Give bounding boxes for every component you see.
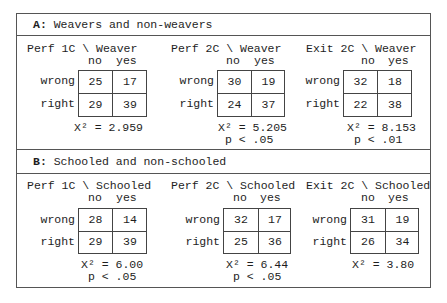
cell: 39 [113, 99, 147, 111]
row-label-wrong: wrong [174, 214, 220, 226]
row-label-right: right [174, 236, 220, 248]
divider [16, 149, 431, 150]
section-a-label: A: [33, 18, 47, 31]
section-b-title: Schooled and non-schooled [54, 155, 227, 168]
col-header-yes: yes [260, 192, 281, 204]
cell: 17 [113, 76, 147, 88]
chi-square-value: X² = 3.80 [352, 259, 414, 271]
row-label-right: right [30, 98, 75, 110]
cell: 14 [113, 214, 147, 226]
section-a-title: Weavers and non-weavers [54, 18, 213, 31]
contingency-grid: 32 17 25 36 [223, 208, 291, 254]
col-header-no: no [361, 55, 375, 67]
col-header-yes: yes [388, 55, 409, 67]
cell: 38 [378, 99, 412, 111]
p-value: p < .01 [354, 134, 402, 146]
cell: 18 [378, 76, 412, 88]
divider [16, 173, 431, 174]
section-b-header: B: Schooled and non-schooled [33, 155, 226, 168]
cell: 36 [259, 236, 291, 248]
col-header-no: no [361, 192, 375, 204]
cell: 32 [224, 214, 258, 226]
row-label-wrong: wrong [294, 75, 340, 87]
cell: 25 [79, 76, 112, 88]
contingency-grid: 30 19 24 37 [217, 70, 285, 117]
cell: 17 [259, 214, 291, 226]
cell: 37 [252, 99, 285, 111]
chi-square-value: X² = 2.959 [74, 122, 143, 134]
section-a-header: A: Weavers and non-weavers [33, 18, 212, 31]
row-label-right: right [294, 98, 340, 110]
col-header-no: no [233, 192, 247, 204]
cell: 29 [79, 236, 112, 248]
row-label-right: right [301, 236, 347, 248]
col-header-no: no [88, 192, 102, 204]
contingency-grid: 25 17 29 39 [78, 70, 147, 117]
row-label-wrong: wrong [30, 75, 75, 87]
col-header-yes: yes [388, 192, 409, 204]
cell: 25 [224, 236, 258, 248]
cell: 19 [252, 76, 285, 88]
row-label-right: right [168, 98, 214, 110]
contingency-grid: 31 19 26 34 [350, 208, 419, 254]
cell: 26 [351, 236, 385, 248]
col-header-no: no [88, 55, 102, 67]
p-value: p < .05 [225, 134, 273, 146]
contingency-grid: 32 18 22 38 [343, 70, 412, 117]
cell: 28 [79, 214, 112, 226]
row-label-right: right [30, 236, 75, 248]
section-b-label: B: [33, 155, 47, 168]
contingency-grid: 28 14 29 39 [78, 208, 147, 254]
cell: 29 [79, 99, 112, 111]
divider [16, 35, 431, 36]
cell: 30 [218, 76, 251, 88]
cell: 24 [218, 99, 251, 111]
cell: 19 [386, 214, 419, 226]
cell: 34 [386, 236, 419, 248]
p-value: p < .05 [233, 271, 281, 283]
cell: 22 [344, 99, 377, 111]
cell: 39 [113, 236, 147, 248]
cell: 31 [351, 214, 385, 226]
col-header-yes: yes [116, 192, 137, 204]
row-label-wrong: wrong [168, 75, 214, 87]
p-value: p < .05 [88, 271, 136, 283]
col-header-yes: yes [254, 55, 275, 67]
cell: 32 [344, 76, 377, 88]
col-header-no: no [226, 55, 240, 67]
row-label-wrong: wrong [30, 214, 75, 226]
row-label-wrong: wrong [301, 214, 347, 226]
col-header-yes: yes [116, 55, 137, 67]
